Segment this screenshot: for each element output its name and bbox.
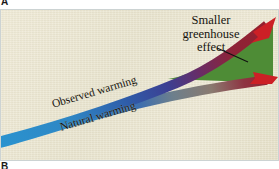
callout-line-2: greenhouse [169, 28, 253, 42]
figure-panel-a: A [0, 0, 279, 169]
panel-letter-a: A [1, 0, 8, 6]
diagram-canvas: Observed warming Natural warming Smaller… [0, 9, 279, 161]
callout-line-1: Smaller [169, 14, 253, 28]
greenhouse-effect-callout: Smaller greenhouse effect [169, 14, 253, 55]
panel-letter-b: B [1, 162, 8, 169]
callout-line-3: effect [169, 41, 253, 55]
